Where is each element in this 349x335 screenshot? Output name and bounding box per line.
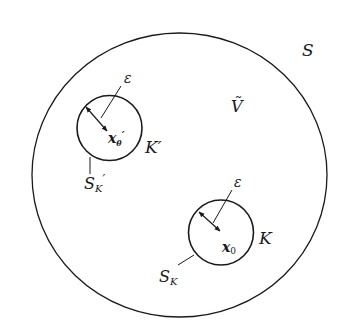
label-epsilon-K: ε: [234, 174, 242, 190]
diagram-canvas: S Ṽ ε xθ′ K′ SK′ ε x0 K SK: [0, 0, 349, 335]
surface-subscript: K: [169, 276, 178, 287]
epsilon-leader-K: [213, 190, 232, 223]
label-S: S: [302, 40, 314, 60]
label-center-x-theta-prime: xθ′: [107, 129, 125, 148]
outer-boundary-S: [32, 33, 327, 317]
label-S-K: SK: [159, 267, 178, 287]
ball-K: ε x0 K SK: [159, 174, 273, 287]
surface-prime: ′: [102, 173, 105, 187]
label-S-K-prime: SK′: [84, 173, 105, 194]
center-prime: ′: [122, 129, 125, 142]
label-center-x-0: x0: [221, 239, 236, 256]
label-V-tilde: Ṽ: [231, 96, 244, 116]
ball-K-prime: ε xθ′ K′ SK′: [77, 70, 162, 194]
epsilon-leader-K-prime: [101, 86, 121, 118]
radius-arrow-K: [199, 212, 220, 231]
surface-S: S: [84, 174, 95, 193]
radius-arrow-K-prime: [86, 107, 107, 131]
label-K: K: [258, 228, 273, 248]
center-subscript: 0: [230, 246, 236, 256]
label-K-prime: K′: [144, 137, 162, 157]
surface-S: S: [159, 267, 170, 286]
label-epsilon-K-prime: ε: [124, 70, 132, 86]
surface-leader-K: [178, 255, 194, 265]
